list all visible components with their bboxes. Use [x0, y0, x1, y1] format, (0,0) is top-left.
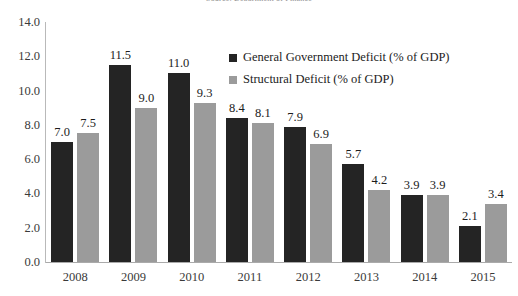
y-axis-tick-label: 4.0: [24, 186, 40, 201]
bar-structural-deficit[interactable]: 8.1: [252, 123, 274, 262]
bar-value-label: 6.9: [313, 127, 329, 142]
bar-value-label: 3.9: [430, 178, 446, 193]
bar-general-government-deficit[interactable]: 11.5: [109, 65, 131, 262]
chart-legend: General Government Deficit (% of GDP)Str…: [229, 50, 450, 94]
x-axis-tick-label: 2015: [454, 270, 512, 285]
bar-value-label: 9.0: [139, 91, 155, 106]
bar-value-label: 9.3: [197, 86, 213, 101]
bar-general-government-deficit[interactable]: 11.0: [168, 73, 190, 262]
bar-value-label: 11.0: [168, 56, 189, 71]
bar-value-label: 7.9: [287, 110, 303, 125]
bar-group: 2.13.4: [454, 22, 512, 262]
bar-value-label: 2.1: [462, 209, 478, 224]
x-axis-tick-label: 2011: [221, 270, 279, 285]
x-axis-tick-label: 2014: [396, 270, 454, 285]
bar-group: 11.09.3: [163, 22, 221, 262]
bar-chart: Source: Department of Finance 14.012.010…: [0, 0, 518, 296]
bar-value-label: 8.1: [255, 106, 271, 121]
x-axis-tick-label: 2012: [279, 270, 337, 285]
legend-swatch-icon: [229, 54, 237, 62]
x-axis-tick-label: 2009: [104, 270, 162, 285]
bar-value-label: 3.9: [404, 178, 420, 193]
bar-value-label: 4.2: [372, 173, 388, 188]
x-axis-tick-labels: 20082009201020112012201320142015: [46, 270, 512, 285]
bar-structural-deficit[interactable]: 4.2: [368, 190, 390, 262]
bar-group: 11.59.0: [104, 22, 162, 262]
y-axis-tick-label: 10.0: [18, 83, 40, 98]
legend-label: General Government Deficit (% of GDP): [243, 50, 450, 65]
bar-general-government-deficit[interactable]: 8.4: [226, 118, 248, 262]
x-axis-line: [46, 262, 512, 263]
x-axis-tick-label: 2010: [163, 270, 221, 285]
y-axis-tick-label: 0.0: [24, 255, 40, 270]
x-axis-tick-label: 2008: [46, 270, 104, 285]
bar-structural-deficit[interactable]: 9.0: [135, 108, 157, 262]
y-axis-tick-label: 6.0: [24, 152, 40, 167]
legend-label: Structural Deficit (% of GDP): [243, 72, 394, 87]
bar-general-government-deficit[interactable]: 7.9: [284, 127, 306, 262]
y-axis-tick-label: 14.0: [18, 15, 40, 30]
x-axis-tick-label: 2013: [337, 270, 395, 285]
bar-value-label: 7.5: [80, 116, 96, 131]
bar-structural-deficit[interactable]: 9.3: [194, 103, 216, 262]
bar-value-label: 11.5: [110, 48, 131, 63]
bar-group: 7.07.5: [46, 22, 104, 262]
y-axis-tick-label: 12.0: [18, 49, 40, 64]
y-axis-tick-label: 2.0: [24, 220, 40, 235]
bar-general-government-deficit[interactable]: 3.9: [401, 195, 423, 262]
bar-general-government-deficit[interactable]: 7.0: [51, 142, 73, 262]
bar-structural-deficit[interactable]: 7.5: [77, 133, 99, 262]
bar-structural-deficit[interactable]: 6.9: [310, 144, 332, 262]
legend-swatch-icon: [229, 76, 237, 84]
legend-item[interactable]: Structural Deficit (% of GDP): [229, 72, 450, 87]
legend-item[interactable]: General Government Deficit (% of GDP): [229, 50, 450, 65]
bar-structural-deficit[interactable]: 3.9: [427, 195, 449, 262]
bar-value-label: 3.4: [488, 187, 504, 202]
bar-general-government-deficit[interactable]: 5.7: [342, 164, 364, 262]
bar-value-label: 8.4: [229, 101, 245, 116]
source-caption: Source: Department of Finance: [0, 0, 518, 1]
bar-value-label: 7.0: [54, 125, 70, 140]
bar-general-government-deficit[interactable]: 2.1: [459, 226, 481, 262]
bar-structural-deficit[interactable]: 3.4: [485, 204, 507, 262]
bar-value-label: 5.7: [346, 147, 362, 162]
y-axis-tick-label: 8.0: [24, 117, 40, 132]
